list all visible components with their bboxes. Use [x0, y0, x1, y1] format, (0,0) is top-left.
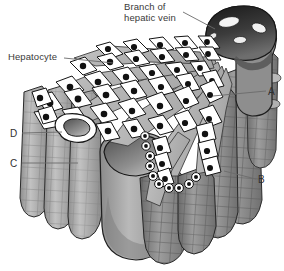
label-d: D [10, 128, 17, 139]
label-c: C [10, 158, 17, 169]
label-b: B [258, 174, 265, 185]
label-a: A [268, 86, 275, 97]
liver-lobule-diagram: Branch of hepatic vein Hepatocyte A B C … [0, 0, 284, 271]
label-branch-of-hepatic-vein: Branch of hepatic vein [124, 1, 176, 23]
liver-lobule-illustration [0, 0, 284, 271]
label-hepatocyte: Hepatocyte [8, 51, 57, 62]
